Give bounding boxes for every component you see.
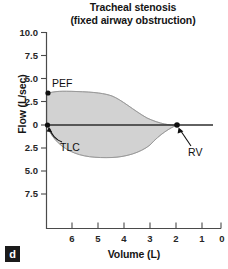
panel-label: d <box>5 246 20 262</box>
annotation-tlc: TLC <box>60 141 80 153</box>
pef-marker-dot <box>45 90 50 95</box>
tlc-marker-dot <box>45 122 50 127</box>
flow-volume-loop-figure: Tracheal stenosis (fixed airway obstruct… <box>0 0 228 269</box>
annotation-rv: RV <box>188 146 202 158</box>
annotation-pef: PEF <box>52 77 72 89</box>
rv-marker-dot <box>174 122 180 128</box>
chart-plot-area <box>0 0 228 269</box>
